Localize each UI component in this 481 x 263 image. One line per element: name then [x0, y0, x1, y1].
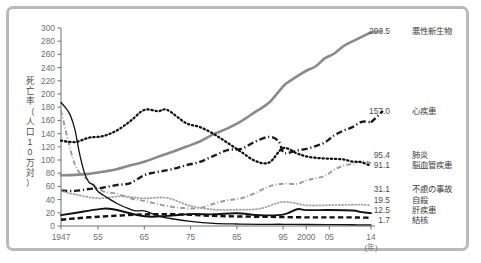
data-series-group	[61, 32, 371, 225]
y-tick-label: 160	[41, 115, 55, 125]
y-axis-title-char: 死	[26, 76, 35, 86]
x-tick-label: 05	[325, 232, 335, 242]
series-value-label: 31.1	[374, 184, 391, 194]
x-axis-unit-label: (年)	[364, 242, 378, 252]
x-tick-label: 2000	[297, 232, 316, 242]
series-leader-line	[371, 31, 383, 32]
y-axis-title: 死亡率（人口10万対）	[26, 76, 35, 188]
series-value-label: 19.5	[374, 195, 391, 205]
series-line-2	[61, 111, 371, 209]
x-tick-label: 14	[366, 232, 376, 242]
y-axis: 0204060801001201401601802002202402602803…	[41, 23, 61, 231]
y-tick-label: 80	[46, 168, 56, 178]
series-value-label: 157.0	[369, 106, 390, 116]
series-name-label: 脳血管疾患	[412, 160, 452, 170]
y-tick-label: 20	[46, 208, 56, 218]
series-value-label: 95.4	[374, 150, 391, 160]
y-tick-label: 260	[41, 49, 55, 59]
chart-container: 0204060801001201401601802002202402602803…	[0, 0, 481, 263]
series-line-4	[61, 191, 371, 210]
y-tick-label: 140	[41, 129, 55, 139]
y-axis-title-char: 0	[28, 147, 33, 157]
series-name-label: 悪性新生物	[412, 26, 452, 36]
series-line-3	[61, 109, 371, 166]
x-tick-label: 95	[278, 232, 288, 242]
x-tick-label: 65	[140, 232, 150, 242]
y-axis-title-char: ）	[26, 178, 35, 188]
series-value-label: 12.5	[374, 205, 391, 215]
y-tick-label: 240	[41, 63, 55, 73]
y-tick-label: 300	[41, 23, 55, 33]
series-name-label: 肝疾患	[412, 205, 436, 215]
series-labels-group: 293.5悪性新生物157.0心疾患95.4肺炎91.1脳血管疾患31.1不慮の…	[369, 26, 453, 225]
y-tick-label: 40	[46, 195, 56, 205]
y-tick-label: 100	[41, 155, 55, 165]
series-name-label: 心疾患	[412, 106, 436, 116]
x-tick-label: 55	[93, 232, 103, 242]
y-axis-title-char: 亡	[26, 85, 35, 96]
series-name-label: 結核	[412, 215, 429, 225]
series-value-label: 1.7	[378, 215, 390, 225]
y-tick-label: 60	[46, 181, 56, 191]
x-tick-label: 1947	[52, 232, 71, 242]
series-line-7	[61, 102, 371, 224]
y-tick-label: 200	[41, 89, 55, 99]
y-tick-label: 120	[41, 142, 55, 152]
series-name-label: 自殺	[412, 195, 429, 205]
y-tick-label: 220	[41, 76, 55, 86]
x-tick-label: 85	[232, 232, 242, 242]
mortality-line-chart: 0204060801001201401601802002202402602803…	[0, 0, 481, 263]
x-axis: 1947556575859520000514	[52, 226, 376, 242]
y-axis-title-char: 対	[26, 167, 35, 178]
y-axis-title-char: 口	[26, 127, 35, 137]
y-tick-label: 180	[41, 102, 55, 112]
y-tick-label: 0	[50, 221, 55, 231]
series-value-label: 91.1	[374, 160, 391, 170]
y-axis-title-char: 人	[26, 117, 35, 127]
y-axis-title-char: 率	[26, 95, 35, 106]
y-axis-title-char: 1	[28, 137, 33, 147]
series-name-label: 肺炎	[412, 150, 428, 160]
y-axis-title-char: 万	[26, 158, 35, 168]
x-tick-label: 75	[186, 232, 196, 242]
y-axis-title-char: （	[26, 107, 35, 117]
x-axis-unit: (年)	[364, 242, 378, 252]
y-tick-label: 280	[41, 36, 55, 46]
series-line-6	[61, 214, 371, 220]
series-name-label: 不慮の事故	[412, 184, 453, 194]
